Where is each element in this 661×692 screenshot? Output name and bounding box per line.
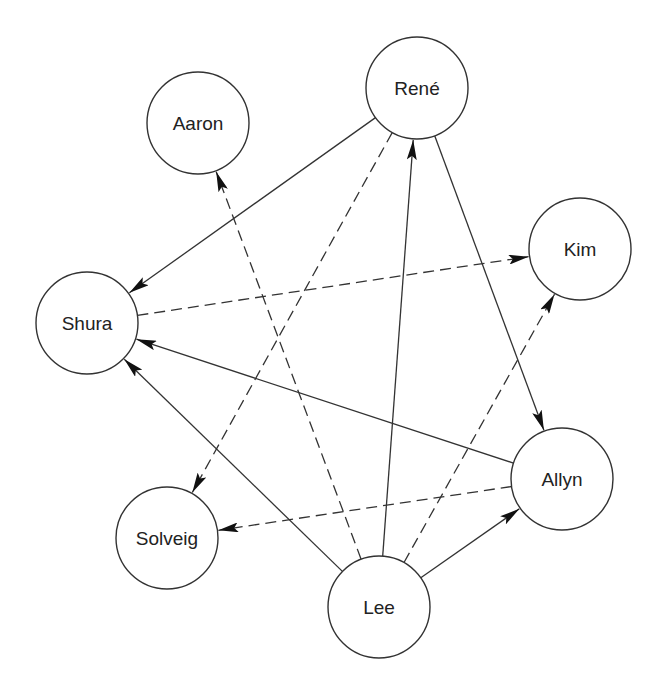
node-allyn: Allyn bbox=[511, 428, 613, 530]
edge-lee-to-kim bbox=[404, 294, 555, 562]
edge-shura-to-kim bbox=[137, 257, 528, 316]
edge-lee-to-rene bbox=[383, 140, 414, 556]
edge-lee-to-aaron bbox=[216, 172, 361, 560]
node-label: Allyn bbox=[541, 469, 582, 490]
node-label: Kim bbox=[564, 239, 597, 260]
node-shura: Shura bbox=[36, 272, 138, 374]
node-rene: René bbox=[366, 37, 468, 139]
edge-allyn-to-shura bbox=[136, 339, 513, 463]
node-label: Shura bbox=[62, 313, 113, 334]
node-label: Aaron bbox=[173, 113, 224, 134]
nodes-layer: RenéAaronKimShuraAllynSolveigLee bbox=[36, 37, 631, 658]
edge-rene-to-allyn bbox=[435, 136, 544, 430]
node-label: Solveig bbox=[136, 528, 198, 549]
node-aaron: Aaron bbox=[147, 72, 249, 174]
node-label: René bbox=[394, 78, 439, 99]
node-lee: Lee bbox=[328, 556, 430, 658]
node-label: Lee bbox=[363, 597, 395, 618]
edge-lee-to-allyn bbox=[421, 509, 520, 578]
graph-diagram: RenéAaronKimShuraAllynSolveigLee bbox=[0, 0, 661, 692]
graph-canvas: RenéAaronKimShuraAllynSolveigLee bbox=[0, 0, 661, 692]
node-solveig: Solveig bbox=[116, 487, 218, 589]
node-kim: Kim bbox=[529, 198, 631, 300]
